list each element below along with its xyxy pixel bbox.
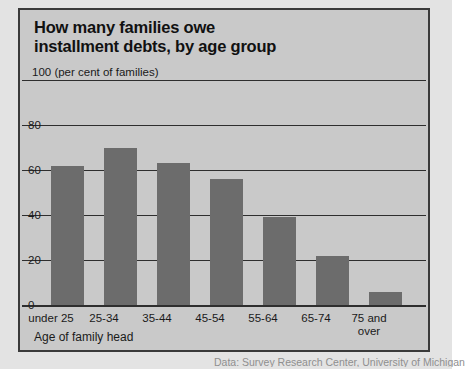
page-title: How many families owe installment debts,… bbox=[34, 18, 364, 56]
y-axis-unit-caption: 100 (per cent of families) bbox=[32, 66, 159, 78]
category-label-text: under 25 bbox=[28, 312, 73, 324]
chart-header: How many families owe installment debts,… bbox=[20, 10, 428, 72]
axis-baseline bbox=[22, 306, 426, 307]
category-label-text-line-1: 75 and bbox=[337, 312, 401, 325]
category-label-text: 45-54 bbox=[195, 312, 224, 324]
x-axis-title: Age of family head bbox=[34, 330, 133, 344]
source-note: Data: Survey Research Center, University… bbox=[214, 356, 465, 367]
plot-area: 80 60 40 20 0 bbox=[22, 80, 426, 315]
bar-55-64 bbox=[263, 217, 296, 305]
chart-title-line-2: installment debts, by age group bbox=[34, 37, 364, 56]
bar-25-34 bbox=[104, 148, 137, 306]
category-label-text-line-2: over bbox=[337, 325, 401, 338]
bar-under-25 bbox=[51, 166, 84, 306]
bar-45-54 bbox=[210, 179, 243, 305]
category-label-text: 65-74 bbox=[301, 312, 330, 324]
category-axis: under 25 25-34 35-44 45-54 55-64 65-74 7… bbox=[22, 306, 426, 350]
category-label-text: 25-34 bbox=[89, 312, 118, 324]
category-label-text: 55-64 bbox=[248, 312, 277, 324]
bar-65-74 bbox=[316, 256, 349, 306]
category-label-75-and-over: 75 and over bbox=[337, 312, 401, 337]
bar-series bbox=[22, 80, 426, 305]
category-label-text: 35-44 bbox=[142, 312, 171, 324]
chart-title-line-1: How many families owe bbox=[34, 18, 364, 37]
bar-35-44 bbox=[157, 163, 190, 305]
chart-frame: How many families owe installment debts,… bbox=[18, 8, 430, 352]
bar-75-and-over bbox=[369, 292, 402, 306]
